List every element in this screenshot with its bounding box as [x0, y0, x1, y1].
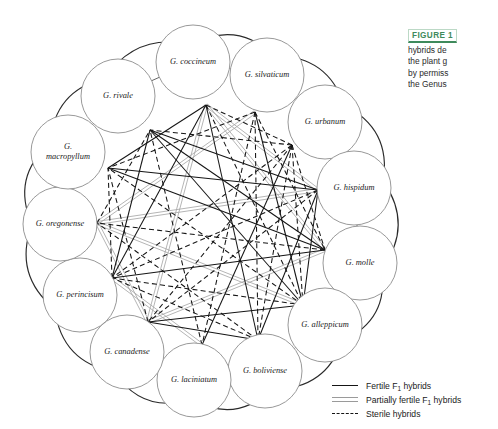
node-label-laciniatum: G. laciniatum — [171, 375, 217, 384]
node-label-canadense: G. canadense — [104, 347, 150, 356]
caption-line: the plant g — [408, 56, 498, 67]
legend: Fertile F1 hybrids Partially fertile F1 … — [330, 379, 494, 421]
node-label-urbanum: G. urbanum — [305, 117, 345, 126]
species-node-perincisum[interactable]: G. perincisum — [43, 258, 117, 332]
node-label-hispidum: G. hispidum — [334, 183, 375, 192]
legend-label-partial: Partially fertile F1 hybrids — [366, 396, 461, 405]
node-label-rivale: G. rivale — [103, 91, 133, 100]
species-node-canadense[interactable]: G. canadense — [90, 315, 164, 389]
species-node-rivale[interactable]: G. rivale — [81, 59, 155, 133]
legend-item-fertile: Fertile F1 hybrids — [330, 379, 494, 393]
node-label-coccineum: G. coccineum — [170, 57, 216, 66]
caption-line: by permiss — [408, 68, 498, 79]
species-nodes: G. coccineumG. silvaticumG. urbanumG. hi… — [23, 25, 397, 417]
node-label-alleppicum: G. alleppicum — [301, 320, 348, 329]
legend-swatch-fertile-line-icon — [330, 381, 360, 391]
legend-label-sterile: Sterile hybrids — [366, 410, 420, 419]
figure-container: G. coccineumG. silvaticumG. urbanumG. hi… — [0, 0, 498, 429]
legend-item-sterile: Sterile hybrids — [330, 407, 494, 421]
node-label-oregonense: G. oregonense — [36, 219, 85, 228]
species-node-alleppicum[interactable]: G. alleppicum — [288, 288, 362, 362]
legend-label-fertile: Fertile F1 hybrids — [366, 382, 431, 391]
node-label-boliviense: G. boliviense — [243, 366, 287, 375]
legend-swatch-partial-line-icon — [330, 395, 360, 405]
species-node-silvaticum[interactable]: G. silvaticum — [230, 38, 304, 112]
species-node-macropyllum[interactable]: G.macropyllum — [31, 115, 105, 189]
species-node-boliviense[interactable]: G. boliviense — [228, 334, 302, 408]
species-node-urbanum[interactable]: G. urbanum — [288, 85, 362, 159]
legend-item-partial: Partially fertile F1 hybrids — [330, 393, 494, 407]
node-label-molle: G. molle — [346, 258, 375, 267]
figure-number-tag: FIGURE 1 — [408, 29, 457, 43]
figure-caption: FIGURE 1 hybrids de the plant g by permi… — [408, 24, 498, 91]
species-node-coccineum[interactable]: G. coccineum — [156, 25, 230, 99]
caption-line: the Genus — [408, 79, 498, 90]
caption-line: hybrids de — [408, 45, 498, 56]
node-label-silvaticum: G. silvaticum — [245, 70, 290, 79]
legend-swatch-sterile-line-icon — [330, 409, 360, 419]
species-node-hispidum[interactable]: G. hispidum — [317, 151, 391, 225]
species-node-oregonense[interactable]: G. oregonense — [23, 187, 97, 261]
species-node-laciniatum[interactable]: G. laciniatum — [157, 343, 231, 417]
node-label-perincisum: G. perincisum — [56, 290, 103, 299]
